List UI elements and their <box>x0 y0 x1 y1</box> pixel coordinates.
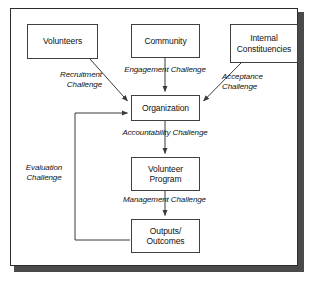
diagram-canvas: Volunteers Community Internal Constituen… <box>0 0 322 284</box>
edge-label-engagement-challenge: Engagement Challenge <box>114 65 216 75</box>
edge-label-management-challenge: Management Challenge <box>107 195 222 205</box>
node-community-label: Community <box>144 36 186 47</box>
edge-label-accountability-challenge: Accountability Challenge <box>109 128 221 138</box>
node-volunteers[interactable]: Volunteers <box>27 24 98 59</box>
node-outputs-outcomes-label-line1: Outputs/ <box>150 226 181 237</box>
edge-label-recruitment-challenge: Recruitment Challenge <box>36 70 102 89</box>
node-internal-constituencies[interactable]: Internal Constituencies <box>230 24 298 63</box>
edge-label-evaluation-challenge: Evaluation Challenge <box>16 163 72 182</box>
node-outputs-outcomes-label-line2: Outcomes <box>147 236 185 247</box>
node-internal-constituencies-label-line1: Internal <box>250 33 278 44</box>
edge-label-acceptance-challenge: Acceptance Challenge <box>222 72 292 91</box>
node-volunteer-program[interactable]: Volunteer Program <box>131 157 200 191</box>
node-organization-label: Organization <box>142 103 189 114</box>
node-volunteer-program-label-line2: Program <box>150 174 182 185</box>
node-outputs-outcomes[interactable]: Outputs/ Outcomes <box>131 219 200 253</box>
node-community[interactable]: Community <box>131 24 200 58</box>
node-volunteers-label: Volunteers <box>43 36 82 47</box>
node-internal-constituencies-label-line2: Constituencies <box>237 44 291 55</box>
node-volunteer-program-label-line1: Volunteer <box>148 164 183 175</box>
node-organization[interactable]: Organization <box>131 95 200 121</box>
